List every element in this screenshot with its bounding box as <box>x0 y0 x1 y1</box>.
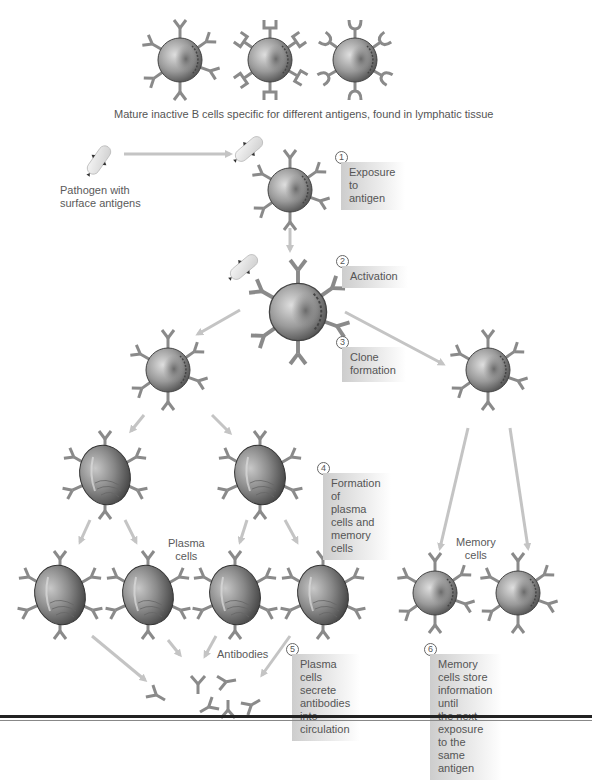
arrow <box>205 636 216 656</box>
pathogen-label: Pathogen with surface antigens <box>60 184 141 210</box>
plasma-cell <box>218 431 303 519</box>
antibody-icons <box>146 673 264 718</box>
arrow <box>80 520 90 542</box>
arrow <box>131 415 144 431</box>
step-text: Exposure to antigen <box>341 162 405 210</box>
arrow-clone-left <box>198 310 240 334</box>
plasma-cell <box>18 551 103 639</box>
antibodies-label: Antibodies <box>217 648 268 661</box>
step-text: Activation <box>342 266 408 288</box>
b-cell-exposed <box>252 150 329 230</box>
arrow <box>92 636 145 680</box>
inactive-b-cell-square-receptor <box>234 20 308 100</box>
plasma-cell <box>193 551 278 639</box>
arrow <box>168 640 180 655</box>
arrow <box>510 428 528 548</box>
pathogen-bound-icon <box>229 132 267 168</box>
arrow <box>212 415 230 433</box>
inactive-b-cell-y-receptor <box>142 20 219 100</box>
plasma-cell <box>281 551 366 639</box>
plasma-cell <box>63 431 148 519</box>
bottom-border-rule <box>0 715 592 718</box>
arrow <box>285 520 297 542</box>
inactive-b-cell-cup-receptor <box>317 20 392 100</box>
memory-cell <box>480 553 557 633</box>
b-cell-clone-left <box>130 330 207 410</box>
memory-cell <box>397 553 474 633</box>
arrow <box>125 520 136 542</box>
plasma-cells-label: Plasma cells <box>168 537 205 563</box>
memory-cells-label: Memory cells <box>456 536 496 562</box>
b-cell-activated <box>249 260 349 364</box>
step-text: Clone formation <box>342 347 406 382</box>
pathogen-icon <box>81 142 116 181</box>
arrow <box>240 520 247 542</box>
plasma-cell <box>106 551 191 639</box>
b-cell-clone-right <box>450 330 527 410</box>
bottom-border-thin-rule <box>0 720 592 721</box>
step-text: Plasma cells secrete antibodies into cir… <box>292 654 360 741</box>
inactive-b-cells-caption: Mature inactive B cells specific for dif… <box>114 108 493 121</box>
arrow <box>440 428 468 548</box>
step-text: Formation of plasma cells and memory cel… <box>323 473 391 560</box>
